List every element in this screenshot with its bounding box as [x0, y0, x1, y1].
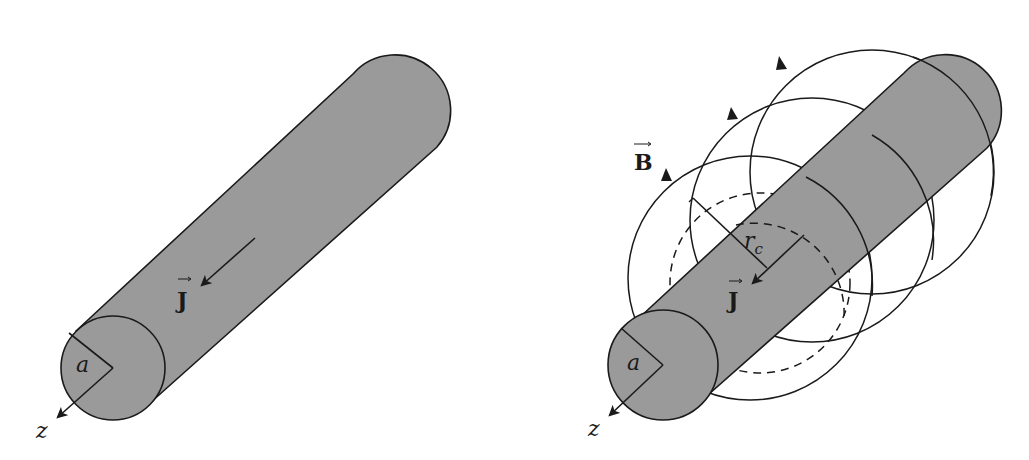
axis-label-z: z — [35, 418, 48, 443]
conductor-cylinder — [61, 55, 451, 420]
diagram-canvas: a z J — [0, 0, 1029, 460]
left-panel: a z J — [35, 55, 451, 443]
axis-label-z: z — [587, 416, 600, 441]
current-density-label: J — [175, 287, 187, 313]
current-density-label: J — [726, 287, 738, 313]
field-arrow-icon — [776, 56, 787, 70]
contour-radius-subscript: c — [755, 240, 764, 258]
radius-label-a: a — [76, 352, 89, 377]
right-panel: a z rc J B — [587, 50, 1001, 441]
magnetic-field-vector-mark — [634, 142, 651, 146]
field-arrow-icon — [661, 168, 672, 181]
radius-label-a: a — [627, 350, 640, 375]
field-direction-arrows — [661, 56, 787, 181]
field-arrow-icon — [727, 107, 738, 120]
magnetic-field-label: B — [634, 149, 653, 175]
